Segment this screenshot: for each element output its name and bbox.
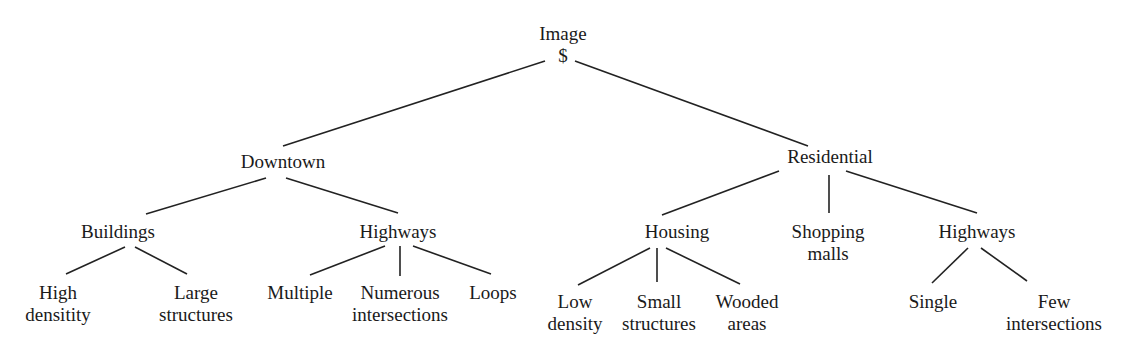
edge-housing-wooded-areas [666, 248, 740, 284]
node-highways-residential-label: Highways [938, 221, 1015, 243]
edge-downtown-highways [286, 178, 398, 213]
node-buildings-label: Buildings [81, 221, 155, 243]
node-small-structures-line-2: structures [622, 313, 696, 335]
node-small-structures-line-1: Small [622, 291, 696, 313]
edge-downtown-buildings [146, 178, 266, 214]
node-shopping-malls: Shopping malls [792, 221, 865, 265]
node-buildings: Buildings [81, 221, 155, 243]
node-single: Single [909, 291, 958, 313]
node-shopping-line-2: malls [792, 243, 865, 265]
edge-buildings-large-structures [135, 247, 187, 274]
edge-buildings-high-density [66, 247, 125, 274]
edge-highways-few-intersections [981, 248, 1027, 281]
node-high-density-line-2: densitity [25, 304, 90, 326]
edge-image-residential [575, 61, 808, 146]
node-shopping-line-1: Shopping [792, 221, 865, 243]
edge-image-downtown [283, 61, 545, 146]
edge-highways-single [932, 248, 968, 283]
node-single-label: Single [909, 291, 958, 313]
edge-residential-housing [662, 171, 779, 215]
node-image-label: Image [539, 23, 586, 45]
node-multiple-label: Multiple [267, 282, 332, 304]
node-downtown: Downtown [241, 151, 325, 173]
node-large-structures-line-1: Large [159, 282, 233, 304]
node-large-structures-line-2: structures [159, 304, 233, 326]
node-low-density-line-2: density [548, 313, 603, 335]
node-numerous-line-2: intersections [352, 304, 448, 326]
node-numerous-intersections: Numerous intersections [352, 282, 448, 326]
edge-highways-multiple [310, 246, 385, 275]
node-image: Image $ [539, 23, 586, 67]
node-loops-label: Loops [469, 282, 517, 304]
node-low-density: Low density [548, 291, 603, 335]
node-residential-label: Residential [787, 146, 872, 168]
node-housing-label: Housing [645, 221, 709, 243]
node-highways-downtown-label: Highways [359, 221, 436, 243]
node-highways-downtown: Highways [359, 221, 436, 243]
dollar-symbol: $ [539, 45, 586, 67]
node-multiple: Multiple [267, 282, 332, 304]
node-few-intersections-line-2: intersections [1006, 313, 1102, 335]
tree-diagram: Image $ Downtown Residential Buildings H… [0, 0, 1144, 354]
edge-housing-low-density [578, 248, 650, 285]
node-housing: Housing [645, 221, 709, 243]
node-loops: Loops [469, 282, 517, 304]
node-highways-residential: Highways [938, 221, 1015, 243]
edge-highways-loops [413, 246, 491, 274]
node-small-structures: Small structures [622, 291, 696, 335]
node-large-structures: Large structures [159, 282, 233, 326]
node-few-intersections-line-1: Few [1006, 291, 1102, 313]
node-high-density-line-1: High [25, 282, 90, 304]
node-numerous-line-1: Numerous [352, 282, 448, 304]
node-low-density-line-1: Low [548, 291, 603, 313]
edge-residential-highways [846, 171, 977, 213]
node-wooded-areas-line-1: Wooded [716, 291, 779, 313]
node-wooded-areas: Wooded areas [716, 291, 779, 335]
node-downtown-label: Downtown [241, 151, 325, 173]
node-wooded-areas-line-2: areas [716, 313, 779, 335]
node-residential: Residential [787, 146, 872, 168]
node-few-intersections: Few intersections [1006, 291, 1102, 335]
node-high-density: High densitity [25, 282, 90, 326]
